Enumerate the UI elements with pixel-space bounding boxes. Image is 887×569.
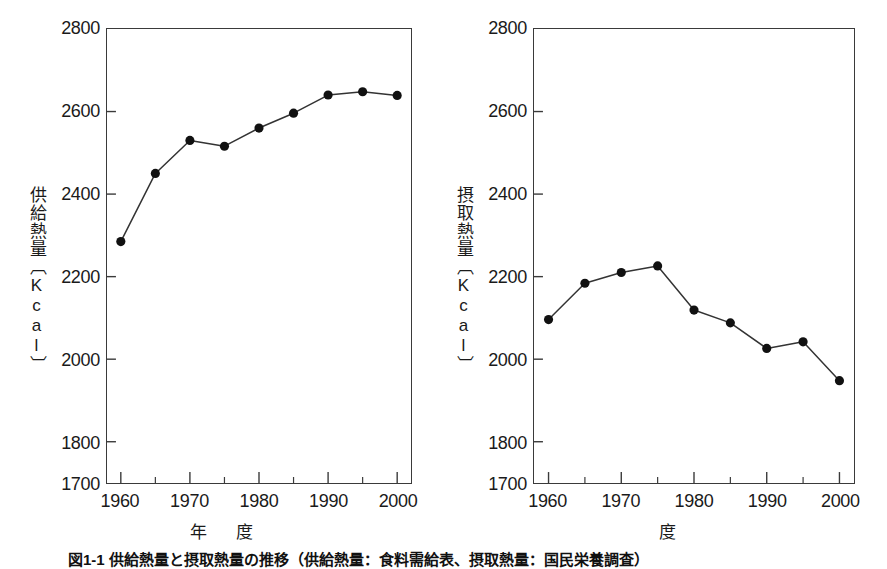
data-point-marker xyxy=(254,123,263,132)
x-axis-title-intake: 度 xyxy=(659,518,682,543)
data-point-marker xyxy=(185,136,194,145)
y-tick-label: 2400 xyxy=(38,185,100,203)
data-point-marker xyxy=(799,337,808,346)
data-point-marker xyxy=(617,268,626,277)
plot-area-supply xyxy=(106,28,412,484)
y-axis-title-intake: 摂取熱量〔Kcal〕 xyxy=(453,186,473,374)
data-point-marker xyxy=(580,279,589,288)
data-point-marker xyxy=(393,91,402,100)
data-point-marker xyxy=(689,305,698,314)
y-axis-title-supply: 供給熱量〔Kcal〕 xyxy=(26,186,46,374)
data-point-marker xyxy=(324,90,333,99)
data-point-marker xyxy=(544,315,553,324)
x-tick-label: 1970 xyxy=(591,492,651,510)
y-tick-label: 2800 xyxy=(465,19,527,37)
data-point-marker xyxy=(289,109,298,118)
figure-caption: 図1-1 供給熱量と摂取熱量の推移（供給熱量：食料需給表、摂取熱量：国民栄養調査… xyxy=(68,551,868,569)
plot-area-intake xyxy=(533,28,855,484)
data-point-marker xyxy=(358,87,367,96)
data-point-marker xyxy=(220,142,229,151)
x-tick-label: 1980 xyxy=(229,492,289,510)
y-tick-label: 2400 xyxy=(465,185,527,203)
x-tick-label: 1990 xyxy=(737,492,797,510)
y-tick-label: 2600 xyxy=(465,102,527,120)
x-tick-label: 1960 xyxy=(518,492,578,510)
chart-panel-intake: 2800260024002200200018001700 摂取熱量〔Kcal〕 … xyxy=(437,0,887,560)
y-tick-label: 2200 xyxy=(465,268,527,286)
x-tick-label: 2000 xyxy=(810,492,870,510)
data-point-marker xyxy=(835,376,844,385)
chart-panel-supply: 2800260024002200200018001700 供給熱量〔Kcal〕 … xyxy=(0,0,450,560)
data-point-marker xyxy=(116,237,125,246)
y-tick-label: 2000 xyxy=(38,351,100,369)
x-axis-tick-labels-supply: 19601970198019902000 xyxy=(0,492,450,518)
y-tick-label: 1700 xyxy=(465,475,527,493)
data-point-marker xyxy=(151,169,160,178)
data-point-marker xyxy=(762,344,771,353)
data-line xyxy=(549,266,840,381)
x-tick-label: 1970 xyxy=(159,492,219,510)
y-tick-label: 1800 xyxy=(465,434,527,452)
x-axis-title-supply: 年 度 xyxy=(190,518,259,543)
x-tick-label: 1990 xyxy=(299,492,359,510)
series-svg-intake xyxy=(534,29,854,483)
x-tick-label: 1960 xyxy=(90,492,150,510)
y-tick-label: 1700 xyxy=(38,475,100,493)
x-tick-label: 2000 xyxy=(368,492,428,510)
data-point-marker xyxy=(726,318,735,327)
data-line xyxy=(121,92,397,242)
y-tick-label: 2800 xyxy=(38,19,100,37)
y-tick-label: 2600 xyxy=(38,102,100,120)
y-tick-label: 1800 xyxy=(38,434,100,452)
y-tick-label: 2000 xyxy=(465,351,527,369)
x-tick-label: 1980 xyxy=(664,492,724,510)
x-axis-tick-labels-intake: 19601970198019902000 xyxy=(437,492,887,518)
y-tick-label: 2200 xyxy=(38,268,100,286)
series-svg-supply xyxy=(107,29,411,483)
data-point-marker xyxy=(653,261,662,270)
